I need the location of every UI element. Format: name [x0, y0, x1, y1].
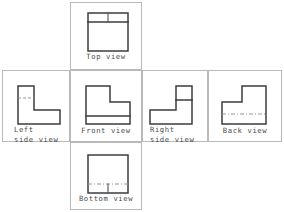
view-back-label: Back view: [208, 126, 282, 135]
front-view-drawing: [70, 70, 142, 126]
view-top-label: Top view: [70, 52, 142, 61]
view-right-side-label-line1: Right: [150, 125, 175, 134]
bottom-view-drawing: [70, 142, 142, 196]
view-back-label-line1: Back view: [223, 126, 267, 135]
view-bottom: Bottom view: [70, 142, 142, 210]
back-view-drawing: [208, 70, 282, 126]
view-right-side-label: Right side view: [142, 125, 216, 144]
view-right-side: Right side view: [142, 70, 208, 142]
view-top-label-line1: Top view: [86, 52, 125, 61]
left-side-view-drawing: [2, 70, 70, 126]
view-top: Top view: [70, 2, 142, 70]
drawing-sheet: Top view Front view Left side view: [0, 0, 284, 212]
view-bottom-label: Bottom view: [70, 194, 142, 203]
view-back: Back view: [208, 70, 282, 142]
right-side-view-drawing: [142, 70, 208, 126]
view-front-label-line1: Front view: [81, 126, 130, 135]
view-left-side-label-line1: Left: [14, 125, 34, 134]
top-view-drawing: [70, 2, 142, 54]
view-left-side: Left side view: [2, 70, 70, 142]
view-right-side-label-line2: side view: [150, 135, 216, 145]
view-bottom-label-line1: Bottom view: [79, 194, 133, 203]
